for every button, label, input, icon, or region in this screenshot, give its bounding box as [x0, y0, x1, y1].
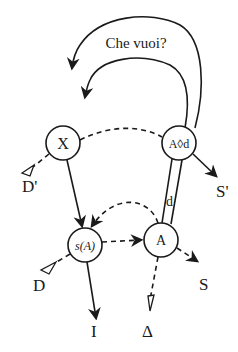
- node-s-of-a-label: s(A): [75, 239, 95, 253]
- i-label: I: [91, 322, 97, 341]
- line-x-to-sa: [67, 160, 82, 226]
- double-line-left: [162, 159, 172, 223]
- delta-label: Δ: [142, 322, 153, 341]
- graph-of-desire: Che vuoi? X A◊d s(A) A D' S' D S I Δ d: [0, 0, 238, 352]
- dashed-arrow-sa-to-a: [102, 240, 141, 242]
- s-prime-label: S': [216, 182, 229, 201]
- dashed-line-x-to-d-prime: [33, 154, 49, 167]
- s-label: S: [199, 275, 208, 294]
- dashed-arc-a-to-sa: [92, 202, 158, 226]
- outer-arc-arrow: [72, 17, 201, 128]
- d-small-label: d: [166, 194, 173, 209]
- node-a-label: A: [156, 233, 167, 248]
- d-prime-label: D': [22, 177, 37, 196]
- delta-marker-icon: [148, 295, 154, 311]
- d-marker-icon: [41, 262, 56, 274]
- dashed-line-sa-to-d: [55, 254, 70, 263]
- line-ad-to-s-prime: [193, 154, 216, 176]
- node-a-lozenge-d-label: A◊d: [169, 137, 190, 151]
- double-line-right: [171, 160, 182, 224]
- che-vuoi-label: Che vuoi?: [105, 35, 167, 51]
- dashed-line-a-to-delta: [150, 257, 158, 300]
- dashed-arc-x-to-ad: [80, 128, 162, 140]
- dashed-line-a-to-s: [177, 248, 197, 261]
- d-prime-marker-icon: [22, 165, 34, 176]
- node-x-label: X: [57, 135, 69, 152]
- d-label: D: [33, 276, 45, 295]
- line-sa-to-i: [87, 262, 96, 318]
- inner-arc-arrow: [85, 58, 187, 128]
